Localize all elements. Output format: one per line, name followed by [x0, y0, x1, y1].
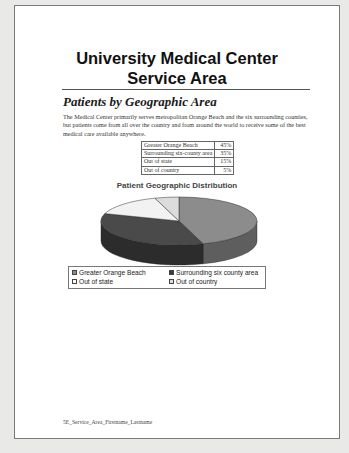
legend-swatch — [72, 270, 77, 275]
legend-label: Out of state — [79, 278, 113, 285]
legend-item: Out of country — [169, 278, 217, 285]
chart-legend: Greater Orange Beach Surrounding six cou… — [68, 266, 266, 289]
pie-chart — [15, 6, 341, 306]
legend-item: Greater Orange Beach — [72, 269, 146, 276]
document-page: University Medical Center Service Area P… — [14, 5, 340, 439]
legend-label: Out of country — [176, 278, 217, 285]
legend-swatch — [169, 279, 174, 284]
legend-label: Greater Orange Beach — [79, 269, 146, 276]
footer-filename: 5E_Service_Area_Firstname_Lastname — [63, 419, 152, 425]
legend-item: Surrounding six county area — [169, 269, 258, 276]
legend-label: Surrounding six county area — [176, 269, 258, 276]
legend-item: Out of state — [72, 278, 113, 285]
legend-swatch — [169, 270, 174, 275]
legend-swatch — [72, 279, 77, 284]
